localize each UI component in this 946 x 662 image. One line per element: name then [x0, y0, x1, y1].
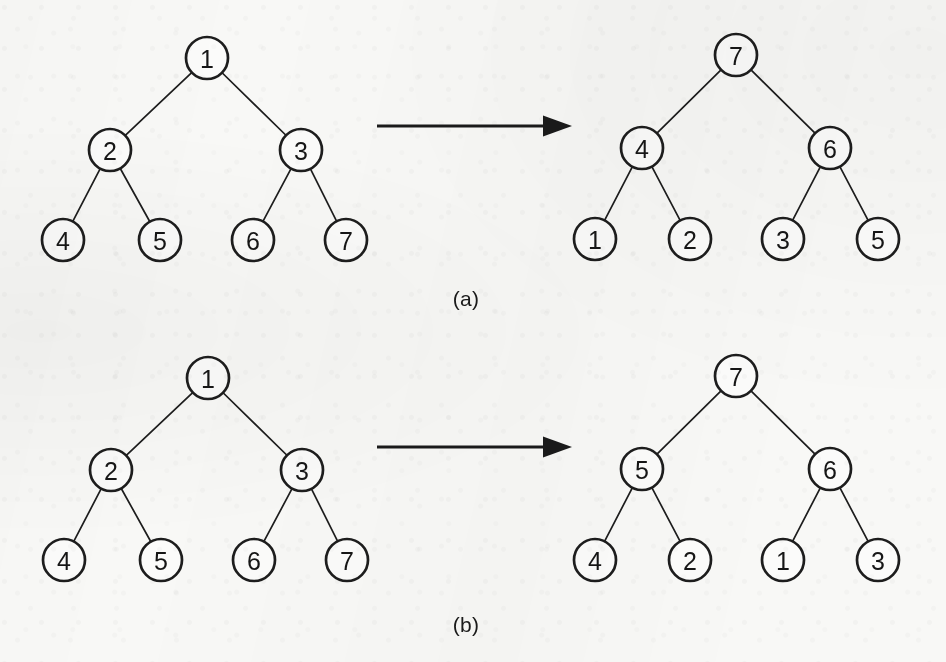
- panel-b: 12345677564213: [43, 355, 899, 581]
- tree-edge-6-3: [839, 487, 868, 543]
- tree-node-6: 6: [232, 219, 274, 261]
- node-label: 7: [729, 42, 743, 70]
- node-label: 1: [201, 365, 215, 393]
- panel-caption-a: (a): [453, 287, 480, 311]
- tree-node-2: 2: [669, 539, 711, 581]
- tree-node-3: 3: [857, 539, 899, 581]
- transformation-arrow-b: [377, 437, 572, 458]
- tree-node-2: 2: [89, 129, 131, 171]
- tree-node-7: 7: [325, 219, 367, 261]
- tree-node-4: 4: [42, 219, 84, 261]
- node-label: 6: [823, 135, 837, 163]
- panel-caption-b: (b): [453, 613, 480, 637]
- node-label: 6: [246, 227, 260, 255]
- node-label: 5: [153, 227, 167, 255]
- tree-edge-3-6: [262, 168, 291, 223]
- tree-edge-1-2: [125, 72, 193, 136]
- node-label: 3: [295, 457, 309, 485]
- tree-edge-3-6: [263, 488, 292, 543]
- tree-node-5: 5: [857, 218, 899, 260]
- tree-node-2: 2: [669, 218, 711, 260]
- tree-node-6: 6: [809, 448, 851, 490]
- tree-node-7: 7: [715, 34, 757, 76]
- tree-edge-1-3: [222, 392, 287, 456]
- tree-edge-7-6: [750, 69, 816, 134]
- panel-a: 12345677461235: [42, 34, 899, 261]
- figure-page: 1234567746123512345677564213 (a)(b): [0, 0, 946, 662]
- tree-edge-2-5: [121, 487, 152, 542]
- tree-b-after: 7564213: [574, 355, 899, 581]
- node-label: 4: [635, 135, 649, 163]
- tree-node-1: 1: [574, 218, 616, 260]
- tree-edge-6-3: [792, 166, 821, 221]
- node-label: 5: [871, 226, 885, 254]
- tree-a-after: 7461235: [574, 34, 899, 260]
- arrow-head: [543, 437, 572, 458]
- tree-node-7: 7: [326, 539, 368, 581]
- node-label: 1: [776, 547, 790, 575]
- tree-edge-6-1: [792, 487, 821, 542]
- tree-node-7: 7: [715, 355, 757, 397]
- node-label: 5: [154, 547, 168, 575]
- tree-edge-5-4: [604, 487, 633, 542]
- tree-node-4: 4: [43, 539, 85, 581]
- node-label: 6: [247, 547, 261, 575]
- node-label: 3: [871, 547, 885, 575]
- tree-edge-4-2: [651, 166, 680, 222]
- tree-node-3: 3: [280, 129, 322, 171]
- node-label: 4: [588, 547, 602, 575]
- node-label: 4: [57, 547, 71, 575]
- tree-edge-2-4: [73, 488, 101, 543]
- node-label: 4: [56, 227, 70, 255]
- tree-node-5: 5: [139, 219, 181, 261]
- tree-node-3: 3: [281, 449, 323, 491]
- tree-edge-6-5: [839, 166, 868, 222]
- node-label: 6: [823, 456, 837, 484]
- node-label: 1: [588, 226, 602, 254]
- node-label: 3: [776, 226, 790, 254]
- tree-node-4: 4: [621, 127, 663, 169]
- tree-node-5: 5: [621, 448, 663, 490]
- tree-edge-7-5: [656, 390, 722, 455]
- arrow-head: [543, 116, 572, 137]
- tree-node-1: 1: [187, 357, 229, 399]
- tree-node-5: 5: [140, 539, 182, 581]
- node-label: 3: [294, 137, 308, 165]
- tree-node-6: 6: [233, 539, 275, 581]
- transformation-arrow-a: [377, 116, 572, 137]
- node-label: 2: [683, 226, 697, 254]
- tree-edge-2-5: [120, 167, 151, 222]
- tree-edge-1-3: [221, 72, 286, 136]
- tree-edge-1-2: [126, 392, 194, 456]
- node-label: 2: [683, 547, 697, 575]
- tree-node-1: 1: [762, 539, 804, 581]
- tree-edge-7-4: [656, 69, 722, 134]
- node-label: 7: [339, 227, 353, 255]
- tree-edge-7-6: [750, 390, 816, 455]
- tree-edge-4-1: [604, 166, 633, 221]
- tree-node-4: 4: [574, 539, 616, 581]
- tree-a-before: 1234567: [42, 37, 367, 261]
- tree-edge-3-7: [311, 488, 338, 542]
- node-label: 7: [340, 547, 354, 575]
- tree-edge-2-4: [72, 168, 100, 223]
- node-label: 2: [104, 457, 118, 485]
- node-label: 1: [200, 45, 214, 73]
- tree-node-2: 2: [90, 449, 132, 491]
- tree-node-6: 6: [809, 127, 851, 169]
- node-label: 5: [635, 456, 649, 484]
- tree-b-before: 1234567: [43, 357, 368, 581]
- tree-edge-3-7: [310, 168, 337, 222]
- tree-edge-5-2: [651, 487, 680, 543]
- tree-node-1: 1: [186, 37, 228, 79]
- tree-node-3: 3: [762, 218, 804, 260]
- node-label: 7: [729, 363, 743, 391]
- binary-tree-figure: 1234567746123512345677564213: [0, 0, 946, 662]
- node-label: 2: [103, 137, 117, 165]
